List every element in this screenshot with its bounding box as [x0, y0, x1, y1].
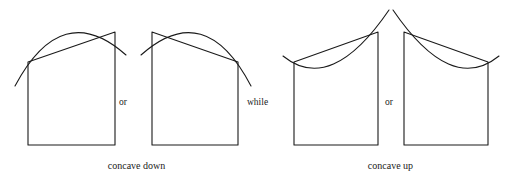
connector-label-while: while	[247, 98, 268, 108]
connector-label-or-2: or	[385, 98, 393, 108]
caption-concave-up: concave up	[318, 161, 463, 171]
region-outline-concave-up-right	[404, 32, 488, 145]
panel-concave-up-left	[283, 10, 389, 145]
region-outline-concave-up-left	[294, 32, 378, 145]
arc-concave-down-right	[141, 33, 251, 86]
panel-concave-down-left	[15, 32, 126, 145]
caption-concave-down: concave down	[64, 161, 209, 171]
panel-concave-down-right	[141, 32, 251, 145]
concavity-figure: or while or concave down concave up	[0, 0, 518, 181]
panel-concave-up-right	[393, 10, 499, 145]
connector-label-or-1: or	[119, 98, 127, 108]
arc-concave-up-left	[283, 10, 389, 68]
arc-concave-up-right	[393, 10, 499, 68]
arc-concave-down-left	[15, 33, 126, 86]
figure-canvas	[0, 0, 518, 181]
